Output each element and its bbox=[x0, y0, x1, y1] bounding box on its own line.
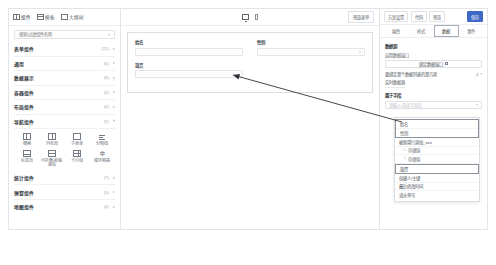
category-count: (7) bbox=[104, 175, 109, 180]
category-count: (6) bbox=[104, 61, 109, 66]
canvas-surface[interactable]: 姓名 性别 籍贯 bbox=[121, 26, 379, 229]
form-field-name[interactable]: 姓名 bbox=[135, 39, 243, 56]
dropdown-item[interactable]: 最后修改时间 bbox=[395, 183, 479, 192]
tab-events[interactable]: 事件 bbox=[459, 25, 484, 37]
chevron-right-icon bbox=[113, 77, 115, 79]
category-label: 容器组件 bbox=[14, 89, 104, 96]
tab-data[interactable]: 数据 bbox=[434, 25, 459, 37]
palette-tab-outline[interactable]: 大纲树 bbox=[60, 13, 85, 22]
palette-tab-bar: 组件 模板 大纲树 bbox=[9, 9, 120, 26]
text-input[interactable] bbox=[135, 48, 243, 56]
tile-label: 子表单 bbox=[71, 142, 83, 147]
dropdown-item[interactable]: 创建人/主键 bbox=[395, 174, 479, 183]
category-row-form[interactable]: 表单组件 (21) bbox=[14, 42, 115, 57]
palette-tab-templates-label: 模板 bbox=[45, 14, 55, 20]
tab-style[interactable]: 样式 bbox=[408, 25, 433, 37]
search-input[interactable] bbox=[19, 31, 108, 38]
palette-tab-templates[interactable]: 模板 bbox=[36, 13, 56, 22]
data-index-label: 要绑定第个数据列表的第几项 bbox=[385, 71, 437, 77]
category-row-layout[interactable]: 布局组件 (4) bbox=[14, 100, 115, 115]
tile-label: 可折叠/收缩面板 bbox=[40, 159, 64, 168]
tabs-icon bbox=[23, 150, 31, 157]
component-palette: 组件 模板 大纲树 表单组件 (21) 通 bbox=[9, 9, 121, 229]
palette-tab-outline-label: 大纲树 bbox=[69, 14, 84, 20]
preview-button[interactable]: 预览 bbox=[429, 11, 445, 22]
bind-data-interface-button[interactable]: 绑定数据接口 bbox=[385, 60, 482, 69]
grid-split-icon bbox=[23, 133, 31, 140]
tile-label: 标签页 bbox=[21, 159, 33, 164]
palette-tile-grid[interactable]: 栅格 bbox=[14, 133, 39, 146]
tile-label: 分隔线 bbox=[96, 142, 108, 147]
palette-search-wrap bbox=[9, 26, 120, 42]
square-icon bbox=[445, 62, 448, 65]
category-row-map[interactable]: 地图组件 (4) bbox=[14, 200, 115, 214]
section-title: 数据源 bbox=[385, 43, 482, 49]
category-label: 统计组件 bbox=[14, 174, 104, 181]
category-row-general[interactable]: 通用 (6) bbox=[14, 57, 115, 72]
category-row-stats[interactable]: 统计组件 (7) bbox=[14, 171, 115, 186]
form-field-gender[interactable]: 性别 bbox=[257, 39, 365, 56]
palette-tab-components[interactable]: 组件 bbox=[12, 13, 32, 22]
category-count: (21) bbox=[101, 46, 109, 51]
palette-tile-collapse[interactable]: 可折叠/收缩面板 bbox=[39, 150, 64, 168]
dropdown-group-highlight: 籍贯 bbox=[395, 164, 479, 175]
dropdown-item[interactable]: 性别 bbox=[396, 129, 478, 138]
phone-icon[interactable] bbox=[255, 14, 259, 20]
category-label: 表单组件 bbox=[14, 45, 101, 52]
category-row-nav[interactable]: 导航组件 (5) bbox=[14, 115, 115, 130]
form-container[interactable]: 姓名 性别 籍贯 bbox=[127, 32, 373, 93]
chevron-right-icon bbox=[113, 206, 115, 208]
dropdown-item-label: 存储值 bbox=[408, 147, 420, 153]
palette-search-box[interactable] bbox=[14, 30, 115, 39]
data-index-row[interactable]: 要绑定第个数据列表的第几项 -1 bbox=[385, 71, 482, 77]
palette-tile-loop[interactable]: ✲ 循环容器 bbox=[90, 150, 115, 168]
subform-icon bbox=[73, 133, 81, 140]
select-input[interactable] bbox=[257, 48, 365, 56]
palette-tile-tabs[interactable]: 标签页 bbox=[14, 150, 39, 168]
bind-button-label: 绑定数据接口 bbox=[419, 61, 443, 67]
properties-action-bar: 方案设置 代码 预览 保存 bbox=[380, 9, 487, 25]
dropdown-item-label: 存储值 bbox=[408, 156, 420, 162]
dropdown-item[interactable]: 流水单号 bbox=[395, 191, 479, 200]
tab-attributes[interactable]: 属性 bbox=[383, 25, 408, 37]
text-input[interactable] bbox=[135, 70, 243, 78]
dropdown-item[interactable]: 姓名 bbox=[396, 120, 478, 129]
category-count: (3) bbox=[104, 190, 109, 195]
data-index-select[interactable]: -1 bbox=[475, 72, 482, 77]
field-label: 籍贯 bbox=[135, 62, 243, 68]
layout-component-tiles: 栅格 列布局 子表单 分隔线 bbox=[14, 129, 115, 171]
data-index-value: -1 bbox=[475, 72, 479, 77]
dropdown-item[interactable]: 籍贯 bbox=[396, 165, 478, 174]
category-count: (4) bbox=[104, 204, 109, 209]
collapse-panel-icon bbox=[48, 150, 56, 157]
properties-tab-bar: 属性 样式 数据 事件 bbox=[380, 25, 487, 38]
canvas-toolbar: 预览表单 bbox=[121, 9, 379, 26]
monitor-icon[interactable] bbox=[242, 14, 249, 20]
category-row-display[interactable]: 数据展示 (8) bbox=[14, 71, 115, 86]
category-label: 布局组件 bbox=[14, 103, 104, 110]
category-row-dialog[interactable]: 弹窗组件 (3) bbox=[14, 185, 115, 200]
field-name-dropdown[interactable]: 姓名 性别 被新增行添加_xxx └ 存储值 └ 存储值 籍贯 创建人/主键 最… bbox=[394, 117, 480, 202]
field-name-select[interactable]: 请输入/选择字段名 bbox=[385, 101, 482, 110]
code-button[interactable]: 代码 bbox=[411, 11, 427, 22]
realtime-data-link[interactable]: 实时数据源 bbox=[385, 79, 405, 88]
tile-label: 列布局 bbox=[46, 142, 58, 147]
divider-icon bbox=[98, 133, 106, 140]
palette-tile-subform[interactable]: 子表单 bbox=[65, 133, 90, 146]
palette-tab-components-label: 组件 bbox=[21, 14, 31, 20]
dropdown-item[interactable]: └ 存储值 bbox=[395, 147, 479, 156]
scheme-settings-button[interactable]: 方案设置 bbox=[384, 11, 408, 22]
palette-tile-columns[interactable]: 列布局 bbox=[39, 133, 64, 146]
outline-icon bbox=[61, 14, 68, 21]
dropdown-group-selected: 姓名 性别 bbox=[395, 119, 479, 138]
device-switcher bbox=[121, 14, 379, 20]
dropdown-item[interactable]: 被新增行添加_xxx bbox=[395, 138, 479, 147]
category-row-container[interactable]: 容器组件 (6) bbox=[14, 86, 115, 101]
palette-tile-divider[interactable]: 分隔线 bbox=[90, 133, 115, 146]
save-button[interactable]: 保存 bbox=[467, 11, 483, 22]
chevron-down-icon bbox=[108, 34, 110, 36]
form-field-hometown[interactable]: 籍贯 bbox=[135, 62, 243, 79]
field-binding-title: 属于字段 bbox=[385, 92, 482, 98]
palette-tile-cardgroup[interactable]: 卡片组 bbox=[65, 150, 90, 168]
dropdown-item[interactable]: └ 存储值 bbox=[395, 155, 479, 164]
